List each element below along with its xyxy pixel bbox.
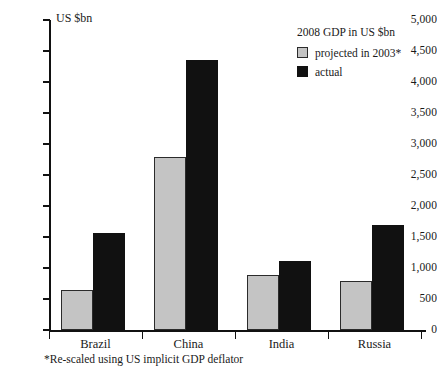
x-axis-category-label: India [235,337,328,351]
y-axis-tick [43,174,50,175]
chart-footnote: *Re-scaled using US implicit GDP deflato… [44,353,243,366]
y-axis-tick [43,81,50,82]
x-axis-line [49,330,426,332]
bar-brazil-actual [93,233,125,330]
bar-chart: US $bn 5,0004,5004,0003,5003,0002,5002,0… [0,0,437,379]
legend-items: projected in 2003*actual [297,45,437,79]
y-axis-tick [43,236,50,237]
x-axis-category-label: Russia [328,337,421,351]
bar-india-projected [247,275,279,330]
x-axis-tick [421,331,422,339]
legend-item-label: projected in 2003* [315,47,401,59]
bar-china-actual [186,60,218,330]
legend-swatch-projected-icon [297,47,308,58]
legend-item-label: actual [315,66,342,78]
y-axis-tick-label: 5,000 [395,14,437,26]
bar-russia-projected [340,281,372,330]
legend-swatch-actual-icon [297,66,308,77]
legend-item: actual [297,64,437,79]
legend-item: projected in 2003* [297,45,437,60]
y-axis-tick [43,205,50,206]
y-axis-tick [43,50,50,51]
y-axis-tick [43,267,50,268]
y-axis-tick [43,112,50,113]
bar-russia-actual [372,225,404,330]
y-axis-tick-label: 3,000 [395,138,437,150]
y-axis-tick [43,143,50,144]
bar-brazil-projected [61,290,93,330]
x-axis-category-label: China [142,337,235,351]
y-axis-tick-label: 2,500 [395,169,437,181]
y-axis-tick-label: 2,000 [395,200,437,212]
x-axis-category-label: Brazil [49,337,142,351]
y-axis-tick [43,19,50,20]
chart-legend: 2008 GDP in US $bn projected in 2003*act… [297,26,437,79]
bar-india-actual [279,261,311,330]
bar-china-projected [154,157,186,330]
y-axis-tick-label: 3,500 [395,107,437,119]
legend-title: 2008 GDP in US $bn [297,26,437,39]
y-axis-tick [43,298,50,299]
y-axis-unit-label: US $bn [56,12,92,25]
